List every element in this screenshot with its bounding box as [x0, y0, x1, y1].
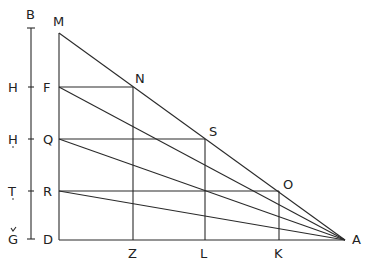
- label-s: S: [209, 124, 217, 139]
- label-q: Q: [43, 132, 53, 147]
- point-labels: M F Q R D N S O Z L K A: [43, 14, 361, 261]
- label-h1: H: [8, 80, 18, 95]
- label-z: Z: [128, 246, 137, 261]
- label-f: F: [43, 80, 50, 95]
- scale-bar: B H H T G: [7, 7, 35, 247]
- label-k: K: [274, 246, 283, 261]
- label-r: R: [43, 184, 52, 199]
- label-l: L: [200, 246, 208, 261]
- label-b: B: [26, 7, 35, 22]
- label-d: D: [43, 232, 53, 247]
- label-n: N: [135, 71, 145, 86]
- label-g: G: [8, 232, 18, 247]
- label-o: O: [283, 177, 293, 192]
- label-m: M: [53, 14, 64, 29]
- figure-lines: [59, 33, 345, 240]
- label-h2: H: [8, 132, 18, 147]
- label-a: A: [352, 232, 361, 247]
- label-t: T: [7, 184, 16, 199]
- geometric-diagram: B H H T G M F Q R D N S O Z L K A: [0, 0, 370, 267]
